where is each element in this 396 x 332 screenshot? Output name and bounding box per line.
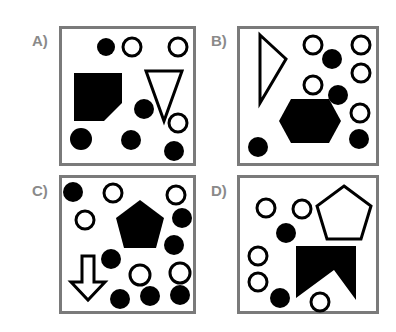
option-label-c: C)	[32, 182, 48, 199]
outline-circle-icon	[167, 186, 185, 204]
option-a-panel[interactable]	[59, 26, 196, 166]
outline-circle-icon	[249, 247, 267, 265]
filled-circle-icon	[110, 289, 130, 309]
filled-circle-icon	[328, 85, 348, 105]
option-d-panel[interactable]	[237, 175, 379, 314]
filled-circle-icon	[121, 130, 141, 150]
filled-circle-icon	[276, 223, 296, 243]
filled-pentagon-icon	[116, 200, 164, 248]
filled-circle-icon	[248, 137, 268, 157]
filled-circle-icon	[140, 286, 160, 306]
outline-circle-icon	[130, 265, 150, 285]
outline-circle-icon	[104, 184, 122, 202]
filled-circle-icon	[170, 285, 190, 305]
option-a-figure	[62, 29, 199, 169]
outline-circle-icon	[352, 64, 370, 82]
filled-pentagon-icon	[74, 73, 122, 121]
outline-pentagon-icon	[317, 186, 371, 239]
outline-circle-icon	[293, 200, 311, 218]
outline-circle-icon	[304, 76, 322, 94]
option-label-d: D)	[211, 182, 227, 199]
outline-circle-icon	[169, 114, 187, 132]
filled-circle-icon	[164, 235, 184, 255]
outline-circle-icon	[249, 273, 267, 291]
filled-circle-icon	[164, 141, 184, 161]
option-label-a: A)	[32, 32, 48, 49]
outline-circle-icon	[76, 211, 94, 229]
filled-circle-icon	[349, 129, 369, 149]
filled-circle-icon	[63, 182, 83, 202]
filled-chevron-icon	[296, 246, 356, 300]
option-c-panel[interactable]	[59, 175, 196, 314]
filled-hexagon-icon	[279, 99, 341, 143]
option-b-panel[interactable]	[237, 26, 379, 166]
outline-circle-icon	[170, 263, 190, 283]
filled-circle-icon	[101, 249, 121, 269]
option-c-figure	[62, 178, 199, 317]
filled-circle-icon	[322, 49, 342, 69]
arrow-down-icon	[71, 256, 105, 300]
option-label-b: B)	[211, 32, 227, 49]
option-d-figure	[240, 178, 382, 317]
filled-circle-icon	[172, 208, 192, 228]
filled-circle-icon	[97, 38, 115, 56]
outline-circle-icon	[352, 36, 370, 54]
outline-circle-icon	[123, 38, 141, 56]
outline-circle-icon	[257, 199, 275, 217]
option-b-figure	[240, 29, 382, 169]
filled-circle-icon	[134, 99, 154, 119]
filled-circle-icon	[70, 128, 92, 150]
outline-circle-icon	[304, 36, 322, 54]
outline-circle-icon	[169, 38, 187, 56]
outline-triangle-icon	[260, 35, 286, 103]
outline-circle-icon	[311, 293, 329, 311]
outline-circle-icon	[351, 104, 369, 122]
filled-circle-icon	[270, 288, 290, 308]
